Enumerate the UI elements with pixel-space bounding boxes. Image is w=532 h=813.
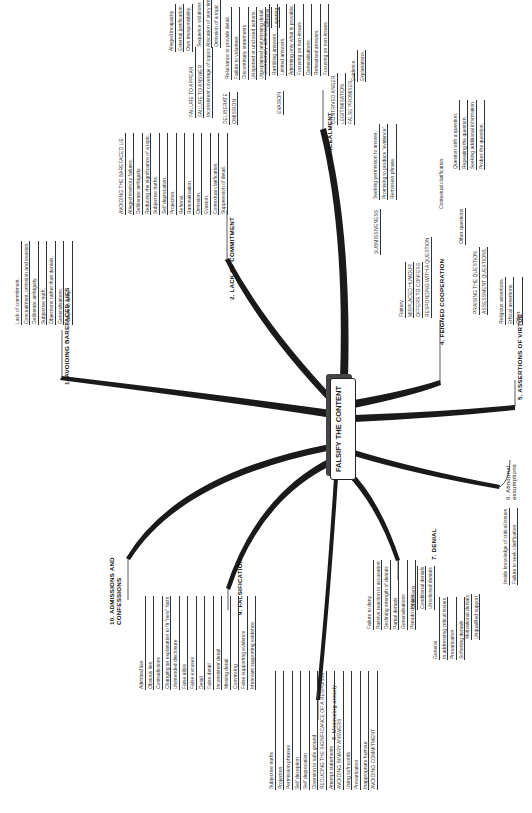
cooperation-more: PRAISING THE QUESTION. ASSESSMENT QUESTI… <box>472 247 488 315</box>
concealment-item: Allocation of story time. <box>205 0 213 48</box>
concealment-item: Rehearsed answers. <box>313 4 321 76</box>
cooperation-item: Probes the question. <box>478 100 486 170</box>
branch-2-item: Alleged memory failures. <box>127 133 135 215</box>
minimizing-item: Using soft words <box>345 671 353 790</box>
denial-item: Failure to deny <box>366 560 374 630</box>
branch-7-items-b: Objections Conditional denials Unsolicit… <box>410 566 435 610</box>
concealment-item: Unopened or unclosed actions. <box>250 7 258 80</box>
minimizing-item: Prevarication <box>353 671 361 790</box>
assumption-item: Inside knowledge of critical issues <box>502 508 510 585</box>
falsification-item: Detail <box>198 596 206 690</box>
denial-item: Prevarication <box>449 597 457 660</box>
concealment-item: Alleged incapacity. <box>168 4 176 52</box>
denial-item: Motivational denials <box>464 594 472 640</box>
denial-item: Passive reaction to accusation <box>375 560 383 630</box>
falsification-item: False excuses <box>189 596 197 690</box>
branch-2-title: 2. LACK OF COMMITMENT <box>220 217 238 300</box>
branch-5-items: Religious assertions. Ethical assertions… <box>498 277 523 325</box>
branch-2-item: Self deprecation. <box>161 133 169 215</box>
branch-2-item: Subjective truths. <box>152 133 160 215</box>
minimizing-item: Inappropriate humour <box>362 671 370 790</box>
failure-to-answer-items: Sequence violations Allocation of story … <box>196 0 221 48</box>
cooperation-item: Remission phrase. <box>389 124 397 200</box>
denial-item: Objections <box>410 566 418 610</box>
branch-2-item: Reducing the significance of a topic. <box>144 133 152 215</box>
cooperation-item: PRAISING THE QUESTION. <box>472 247 480 315</box>
assumption-item: Failure to seek clarification <box>511 508 519 585</box>
branch-1-item: Concealment, omission and evasion. <box>23 241 31 325</box>
branch-2-items: AVOIDING THE BAREFACED LIE Alleged memor… <box>118 133 228 215</box>
falsification-item: Convincing <box>232 596 240 690</box>
minimizing-item: Self deception <box>294 671 302 790</box>
falsification-item: Irrelevant supporting evidence <box>249 596 257 690</box>
concealment-item: Reluctance to provide detail. <box>224 7 232 80</box>
minimizing-item: Attempt statements <box>328 671 336 790</box>
denial-item: General <box>432 597 440 660</box>
omission-label: OMISSION <box>231 92 239 125</box>
branch-4-title: 4. FEIGNED COOPERATION <box>430 259 448 345</box>
branch-1-item: Lack of commitment. <box>14 241 22 325</box>
concealment-item: CONTRIVED ANGER. <box>330 73 338 125</box>
virtue-item: Other. <box>515 277 523 325</box>
branch-1-item: Failure to deny. <box>65 241 73 325</box>
cooperation-item: ASSESSMENT QUESTIONS. <box>481 247 489 315</box>
denial-item: Unqualified support <box>473 594 481 640</box>
branch-6-title: 6. Abnormal assumptions <box>505 460 517 500</box>
rambling-sub: General Layering <box>264 7 280 28</box>
falsification-item: Obvious lies <box>147 596 155 690</box>
failure-to-answer: FAILURE TO ANSWER <box>197 47 205 118</box>
branch-9-items: Admitted lies Obvious lies Contradiction… <box>138 596 256 690</box>
branch-2-item: Projection. <box>169 133 177 215</box>
falsification-item: Unintended disclosure <box>172 596 180 690</box>
concealment-item: Own irresponsibility. <box>185 4 193 52</box>
failure-to-appear-items: Alleged incapacity. External justificati… <box>168 4 193 52</box>
branch-2-item: Deliberate ambiguity. <box>135 133 143 215</box>
concealment-item: Admitting only what is provable. <box>288 4 296 76</box>
branch-1-items: Lack of commitment. Concealment, omissio… <box>14 241 73 325</box>
submissiveness-label: SUBMISSIVENESS <box>373 209 381 255</box>
concealment-item: LEGITIMISATION. <box>339 73 347 125</box>
concealment-item: Omission of a topic. <box>213 0 221 48</box>
branch-1-item: Generalisations. <box>57 241 65 325</box>
branch-6-items: Inside knowledge of critical issues Fail… <box>502 508 518 585</box>
concealment-item: Evidence. <box>350 50 358 82</box>
concealment-item: Failure to volunteer. <box>233 7 241 80</box>
concealment-item: Generalisations. <box>305 4 313 76</box>
branch-7-items-c: General In addressing critical issues Pr… <box>432 597 465 660</box>
cooperation-items: Flattery. MISPLACED HUMOUR OFFERS TO CON… <box>398 262 423 318</box>
branch-7-items-a: Failure to deny Passive reaction to accu… <box>366 560 416 630</box>
branch-2-item: Evasion. <box>203 133 211 215</box>
concealment-item: Explanations. <box>359 50 367 82</box>
falsification-item: Inconsistent detail <box>215 596 223 690</box>
minimizing-item: REDUCING THE SIGNIFICANCE OF A RESPONSE <box>319 671 327 790</box>
minimizing-item: Subjective truths <box>268 671 276 790</box>
minimizing-item: Self deprecation <box>302 671 310 790</box>
concealment-item: General <box>264 7 272 28</box>
omission-group: DELIBERATE OMISSION <box>222 92 238 125</box>
falsification-item: False alibis <box>181 596 189 690</box>
central-node-label: FALSIFY THE CONTENT <box>334 381 343 477</box>
branch-8-items: Subjective truths Projection Permission … <box>268 671 378 790</box>
falsification-item: Contradictions <box>155 596 163 690</box>
concealment-failure-group: FAILURE TO APPEAR FAILURE TO ANSWER Inco… <box>188 47 213 118</box>
concealment-item: External justification. <box>177 4 185 52</box>
denial-item: Conditional denials <box>419 566 427 610</box>
denial-item: Partial denials <box>392 560 400 630</box>
omission-deliberate: DELIBERATE <box>222 92 230 125</box>
branch-2-item: Rationalisation. <box>186 133 194 215</box>
concealment-item: Sequence violations <box>196 0 204 48</box>
branch-2-item: Contextual clarification. <box>212 133 220 215</box>
denial-item: Declining strength of denials <box>383 560 391 630</box>
falsification-item: False detail <box>206 596 214 690</box>
denial-item: Generalisations <box>400 560 408 630</box>
cooperation-item: Seeking additional information. <box>469 100 477 170</box>
minimizing-item: Projection <box>277 671 285 790</box>
contextual-items: Question with a question. Repeating the … <box>452 100 485 170</box>
central-node: FALSIFY THE CONTENT <box>330 378 356 480</box>
failure-to-appear: FAILURE TO APPEAR <box>188 47 196 118</box>
branch-2-item: Referral. <box>178 133 186 215</box>
branch-2-item: Suppression of detail. <box>220 133 228 215</box>
cooperation-item: MISPLACED HUMOUR <box>407 262 415 318</box>
minimizing-item: AVOIDING COMMITMENT <box>370 671 378 790</box>
omission-items: Reluctance to provide detail. Failure to… <box>224 7 266 80</box>
